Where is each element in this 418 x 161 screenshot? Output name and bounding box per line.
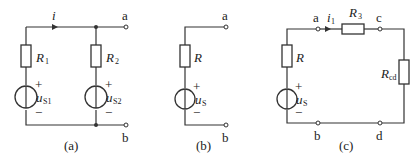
label-a: a — [122, 8, 128, 23]
label-b: b — [122, 130, 129, 145]
svg-text:−: − — [193, 105, 200, 120]
svg-text:S: S — [202, 99, 206, 108]
terminal-b — [316, 121, 320, 125]
svg-text:2: 2 — [115, 57, 119, 66]
svg-text:−: − — [105, 105, 112, 120]
svg-text:3: 3 — [358, 12, 362, 21]
label-b: b — [222, 130, 229, 145]
caption-c: (c) — [339, 138, 353, 153]
current-arrow-icon — [52, 24, 58, 30]
circuit-b: a b R + u S − (b) — [175, 8, 229, 153]
circuit-c: i 1 a c b d R R 3 R cd + u S − (c) — [277, 5, 409, 153]
voltage-source-us2 — [85, 86, 107, 108]
resistor-r — [180, 45, 190, 67]
label-r: R — [193, 50, 202, 65]
resistor-r2 — [91, 45, 101, 67]
caption-a: (a) — [64, 138, 78, 153]
svg-text:cd: cd — [389, 73, 397, 82]
terminal-c — [378, 27, 382, 31]
label-r: R — [295, 50, 304, 65]
resistor-r — [282, 45, 292, 67]
svg-text:1: 1 — [331, 17, 335, 26]
current-label-i: i — [52, 8, 56, 23]
resistor-rcd — [399, 60, 409, 84]
svg-text:S: S — [303, 99, 307, 108]
label-a: a — [313, 10, 319, 25]
junction-dot — [94, 25, 98, 29]
caption-b: (b) — [196, 138, 211, 153]
label-r1: R — [35, 50, 44, 65]
label-us2: u — [106, 90, 113, 105]
label-us1: u — [36, 90, 43, 105]
svg-text:1: 1 — [45, 57, 49, 66]
svg-text:−: − — [295, 105, 302, 120]
circuit-diagrams: i a b R 1 R 2 + u S1 − + u S2 − (a) a b … — [0, 0, 418, 161]
voltage-source-us1 — [15, 86, 37, 108]
resistor-r1 — [21, 45, 31, 67]
resistor-r3 — [342, 24, 364, 34]
label-r2: R — [105, 50, 114, 65]
label-b: b — [314, 128, 321, 143]
voltage-source-us — [175, 89, 195, 109]
terminal-d — [378, 121, 382, 125]
terminal-a — [124, 25, 128, 29]
svg-text:S2: S2 — [113, 97, 121, 106]
circuit-a: i a b R 1 R 2 + u S1 − + u S2 − (a) — [15, 8, 129, 153]
current-arrow-icon — [325, 26, 331, 32]
label-a: a — [222, 8, 228, 23]
label-rcd: R — [380, 66, 389, 81]
terminal-a — [224, 25, 228, 29]
label-r3: R — [348, 5, 357, 20]
terminal-a — [316, 27, 320, 31]
junction-dot — [94, 123, 98, 127]
terminal-b — [124, 123, 128, 127]
voltage-source-us — [277, 89, 297, 109]
label-c: c — [376, 10, 382, 25]
terminal-b — [224, 123, 228, 127]
label-d: d — [376, 128, 383, 143]
svg-text:−: − — [35, 105, 42, 120]
svg-text:S1: S1 — [43, 97, 51, 106]
